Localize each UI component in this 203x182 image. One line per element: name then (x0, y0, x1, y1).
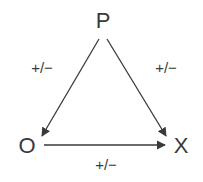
triangle-diagram: P O X +/− +/− +/− (0, 0, 203, 182)
edge-label-o-x: +/− (95, 156, 117, 173)
node-x: X (174, 133, 189, 158)
edge-p-to-o (42, 39, 99, 136)
edge-label-p-o: +/− (31, 59, 53, 76)
edge-p-to-x (107, 39, 166, 136)
node-o: O (18, 133, 35, 158)
node-p: P (96, 8, 111, 33)
edge-label-p-x: +/− (155, 59, 177, 76)
